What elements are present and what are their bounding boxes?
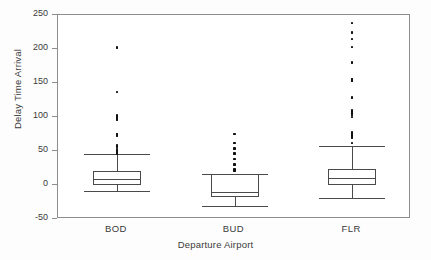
box-plot-figure: Delay Time Arrival Departure Airport 250… — [0, 0, 431, 260]
whisker-upper — [352, 146, 353, 168]
outlier-point — [351, 142, 354, 145]
median-line — [328, 178, 376, 179]
outlier-point — [351, 61, 354, 64]
y-tick-label: 200 — [14, 43, 48, 52]
cap-lower — [319, 198, 385, 199]
outlier-point — [351, 96, 354, 99]
y-tick-label: 100 — [14, 111, 48, 120]
plot-area — [57, 14, 410, 218]
outlier-point — [351, 116, 354, 119]
outlier-point — [351, 38, 354, 41]
cap-upper — [319, 146, 385, 147]
y-tick-label: 250 — [14, 9, 48, 18]
box-flr — [58, 15, 409, 217]
y-tick-label: 50 — [14, 145, 48, 154]
y-tick-mark — [52, 218, 57, 219]
outlier-point — [351, 22, 354, 25]
x-tick-label-bud: BUD — [204, 224, 264, 234]
x-tick-label-bod: BOD — [86, 224, 146, 234]
whisker-lower — [352, 185, 353, 198]
x-tick-label-flr: FLR — [321, 224, 381, 234]
outlier-point — [351, 31, 354, 34]
outlier-point — [351, 131, 354, 134]
y-tick-label: 0 — [14, 179, 48, 188]
y-tick-label: -50 — [14, 213, 48, 222]
x-axis-label: Departure Airport — [0, 240, 431, 250]
outlier-point — [351, 46, 354, 49]
y-tick-label: 150 — [14, 77, 48, 86]
